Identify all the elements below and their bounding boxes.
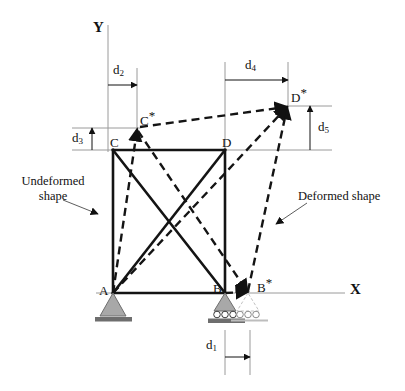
star-glyph: * (149, 108, 156, 123)
dimension-label-d4-sub: 4 (252, 63, 257, 73)
dimension-label-d1-letter: d (206, 337, 213, 352)
undeformed-leader-line (63, 200, 98, 214)
dimension-label-d5-letter: d (318, 119, 325, 134)
star-glyph: * (266, 275, 273, 290)
dimension-label-d2: d2 (113, 63, 124, 76)
node-label-C: C (110, 136, 119, 149)
node-label-A: A (99, 284, 108, 297)
deformed-member-Bstar-Dstar (248, 108, 287, 291)
dimension-label-d3-sub: 3 (79, 136, 84, 146)
annotation-undeformed-shape: Undeformed shape (8, 175, 98, 202)
truss-diagram: Y X A B C D B* C* D* d1 d2 d3 d4 d5 Unde… (0, 0, 405, 391)
dimension-label-d2-letter: d (113, 62, 120, 77)
node-label-D: D (222, 136, 231, 149)
dimension-label-d1-sub: 1 (213, 343, 218, 353)
deformed-member-A-Dstar (113, 108, 286, 293)
node-label-Cstar-letter: C (140, 113, 149, 128)
annotation-deformed-line1: Deformed shape (298, 190, 403, 203)
y-axis-label: Y (93, 20, 104, 35)
x-axis-label: X (350, 282, 361, 297)
node-label-Bstar-letter: B (257, 280, 266, 295)
deformed-member-Cstar-Dstar (140, 107, 286, 127)
dimension-label-d5-sub: 5 (325, 125, 330, 135)
annotation-undeformed-line1: Undeformed (8, 175, 98, 188)
star-glyph: * (300, 85, 307, 100)
support-roller-wheel (214, 311, 221, 318)
dimension-label-d3-letter: d (72, 130, 79, 145)
support-roller-B (208, 293, 245, 323)
support-roller-wheel (230, 311, 237, 318)
annotation-deformed-shape: Deformed shape (298, 190, 403, 203)
deformed-shape-members (113, 107, 287, 293)
support-roller-ghost-triangle (237, 293, 259, 311)
support-roller-ghost-wheel (237, 311, 244, 318)
support-pin-base (95, 317, 132, 322)
support-roller-wheel (222, 311, 229, 318)
dimension-label-d4-letter: d (245, 57, 252, 72)
support-roller-Bstar-ghost (231, 293, 268, 321)
dimension-label-d3: d3 (72, 131, 83, 144)
support-roller-ghost-wheel (253, 311, 260, 318)
dimension-label-d5: d5 (318, 120, 329, 133)
support-roller-ghost-wheel (245, 311, 252, 318)
node-label-Dstar-letter: D (291, 90, 300, 105)
node-label-Cstar: C* (140, 114, 155, 127)
deformed-member-Cstar-Bstar (138, 131, 247, 291)
dimension-label-d2-sub: 2 (120, 68, 125, 78)
annotation-undeformed-line2: shape (8, 190, 98, 203)
node-label-Dstar: D* (291, 91, 307, 104)
deformed-leader-line (276, 203, 307, 224)
dimension-label-d1: d1 (206, 338, 217, 351)
node-label-B: B (213, 282, 222, 295)
node-label-Bstar: B* (257, 281, 272, 294)
dimension-label-d4: d4 (245, 58, 256, 71)
annotation-leaders (63, 200, 307, 224)
undeformed-shape-members (113, 150, 225, 293)
